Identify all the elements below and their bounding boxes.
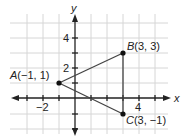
x-tick-label-neg2: −2 xyxy=(36,101,49,113)
y-tick-label-2: 2 xyxy=(63,62,69,74)
point-b-label: B(3, 3) xyxy=(127,40,160,52)
x-tick-label-4: 4 xyxy=(135,101,141,113)
point-c xyxy=(120,111,125,116)
point-a xyxy=(56,80,61,85)
coordinate-plane: x y −2 4 4 2 A(−1, 1) B(3, 3) C(3, −1) xyxy=(0,0,188,138)
point-a-label: A(−1, 1) xyxy=(9,69,49,81)
x-axis-label: x xyxy=(173,92,180,104)
point-c-label: C(3, −1) xyxy=(126,114,166,126)
y-axis-label: y xyxy=(70,2,78,14)
point-b xyxy=(120,50,125,55)
y-tick-label-4: 4 xyxy=(63,32,69,44)
y-axis-up-arrow-icon xyxy=(72,14,78,22)
x-axis-right-arrow-icon xyxy=(163,95,171,101)
x-axis-left-arrow-icon xyxy=(11,95,19,101)
